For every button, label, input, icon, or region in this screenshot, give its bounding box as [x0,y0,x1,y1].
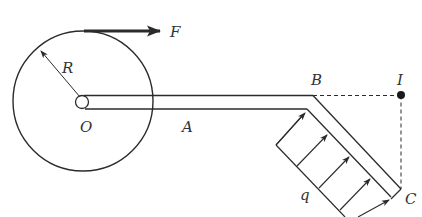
rod-BC [307,96,401,200]
point-I-dot [397,91,405,99]
radius-arrow [41,51,80,97]
wheel [13,31,153,171]
label-A: A [180,118,193,136]
distributed-load [276,113,389,217]
label-q: q [300,186,310,204]
label-R: R [61,59,73,77]
label-C: C [405,190,417,208]
label-F: F [169,23,181,41]
rod-OB [84,96,313,110]
label-O: O [80,118,92,136]
label-I: I [396,71,404,89]
mechanism-diagram: F R O A B I C q [0,0,422,217]
label-B: B [310,71,322,89]
hub-pin [76,96,89,109]
